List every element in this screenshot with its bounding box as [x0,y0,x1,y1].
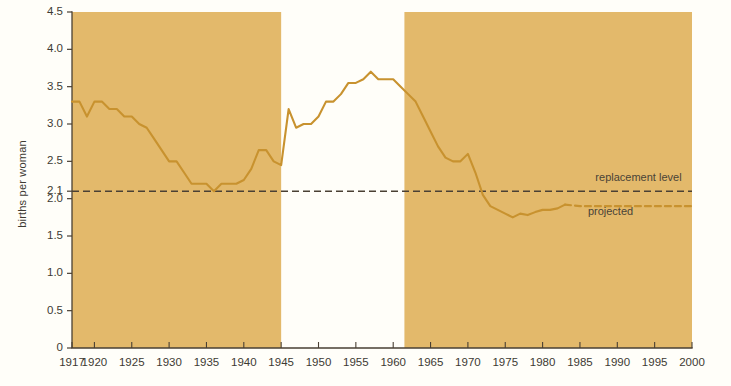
y-tick-label: 0 [57,342,63,354]
y-axis-label: births per woman [16,104,28,264]
y-tick-label: 3.5 [47,81,63,93]
y-tick-label: 0.5 [47,305,63,317]
y-tick-label: 1.0 [47,267,63,279]
y-tick-label: 1.5 [47,230,63,242]
fertility-rate-chart [0,0,731,386]
y-tick-label: 2.1 [47,185,63,197]
y-tick-label: 2.5 [47,155,63,167]
y-tick-label: 3.0 [47,118,63,130]
band-1917-1945 [72,12,281,348]
x-tick-label: 2000 [668,357,716,369]
chart-canvas [0,0,731,386]
y-tick-label: 4.0 [47,43,63,55]
replacement-level-annotation: replacement level [595,171,681,183]
projected-annotation: projected [588,205,633,217]
y-tick-label: 4.5 [47,6,63,18]
